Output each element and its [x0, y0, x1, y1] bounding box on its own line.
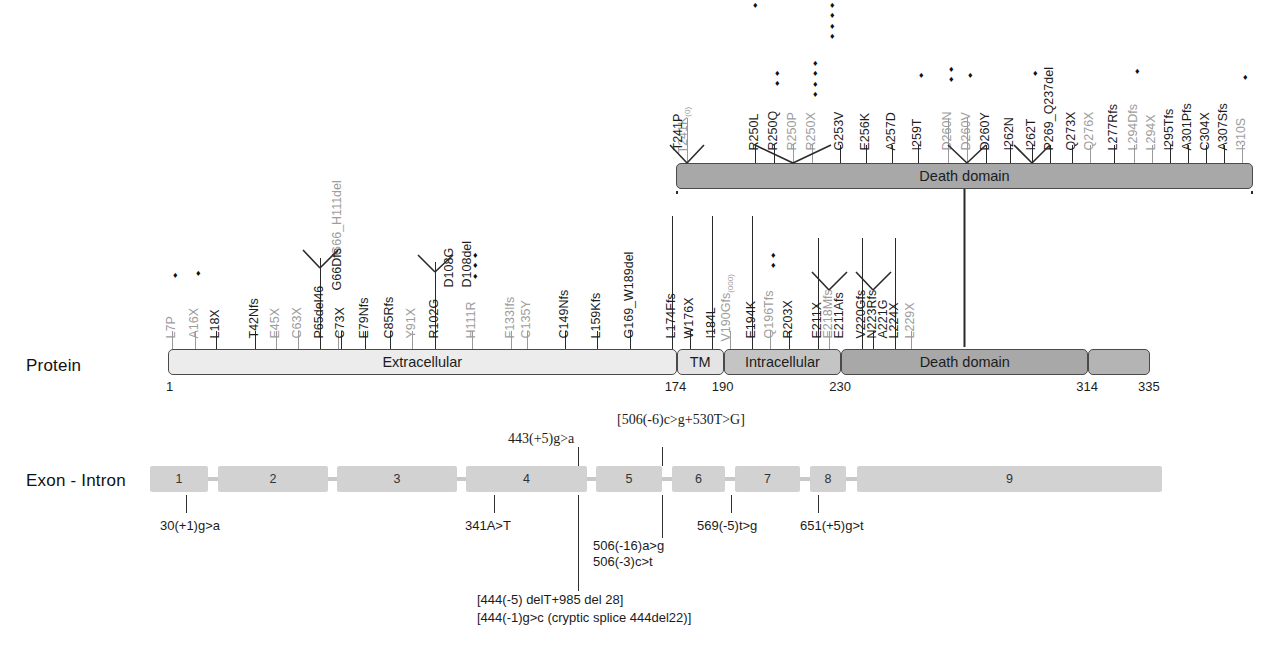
mutation-label: L224X	[888, 302, 901, 338]
mutation-diamond-marker: ♦	[196, 268, 201, 278]
mutation-label: R203X	[782, 300, 795, 338]
mutation-label: I259T	[911, 119, 924, 151]
death-domain-zoom-bar: Death domain	[676, 163, 1253, 189]
protein-position-190: 190	[712, 379, 734, 394]
exon-number: 1	[176, 472, 183, 486]
mutation-diamond-marker: ♦	[1135, 66, 1140, 76]
protein-position-335: 335	[1138, 379, 1160, 394]
mutation-label: R102G	[428, 299, 441, 339]
exon-number: 2	[270, 472, 277, 486]
mutation-label: P269_Q237del	[1043, 67, 1056, 150]
mutation-diamond-marker: ♦	[753, 0, 758, 10]
mutation-diamond-marker: ♦	[1243, 72, 1248, 82]
mutation-label: Q196Tfs	[763, 291, 776, 339]
intron-connector	[846, 477, 857, 481]
exon-block-5: 5	[596, 466, 662, 492]
mutation-label: E256K	[859, 113, 872, 151]
mutation-label: C304X	[1199, 112, 1212, 150]
mutation-label: I262T	[1025, 119, 1038, 151]
protein-position-314: 314	[1076, 379, 1098, 394]
mutation-label: P65del46	[313, 286, 326, 339]
mutation-label: D260Y	[979, 112, 992, 150]
splice-annotation-below: [444(-5) delT+985 del 28]	[477, 592, 623, 607]
mutation-label: Q276X	[1083, 112, 1096, 151]
intron-connector	[208, 477, 218, 481]
splice-leader-line	[662, 495, 663, 538]
mutation-label: I310S	[1235, 118, 1248, 151]
splice-leader-line	[662, 447, 663, 466]
splice-leader-line	[494, 495, 495, 513]
mutation-label: C85Rfs	[383, 297, 396, 339]
exon-number: 4	[523, 472, 530, 486]
mutation-label: Q273X	[1065, 112, 1078, 151]
mutation-label: G253V	[833, 112, 846, 151]
intron-connector	[725, 477, 735, 481]
intron-connector	[800, 477, 810, 481]
exon-number: 5	[626, 472, 633, 486]
mutation-label: W176X	[683, 298, 696, 339]
mutation-label: L294X	[1145, 114, 1158, 150]
protein-domain-extracellular: Extracellular	[168, 349, 677, 375]
mutation-label: L294Dfs	[1127, 104, 1140, 151]
mutation-label: G66_H111del	[331, 180, 344, 255]
mutation-label: C63X	[291, 307, 304, 338]
protein-domain-label: Extracellular	[382, 354, 462, 370]
mutation-label: A257D	[885, 112, 898, 150]
mutation-diamond-marker: ♦	[968, 70, 973, 80]
protein-position-174: 174	[665, 379, 687, 394]
mutation-label: L159Kfs	[590, 293, 603, 339]
splice-annotation-below: 506(-3)c>t	[593, 554, 653, 569]
mutation-label: R250Q	[767, 111, 780, 151]
splice-annotation-below: 651(+5)g>t	[800, 518, 864, 533]
mutation-label: E45X	[269, 308, 282, 339]
mutation-label: C73X	[334, 307, 347, 338]
mutation-label: N223Rfs	[866, 290, 879, 339]
mutation-label: L174Ffs	[665, 293, 678, 338]
protein-position-1: 1	[166, 379, 173, 394]
splice-annotation-below: [444(-1)g>c (cryptic splice 444del22)]	[477, 610, 691, 625]
exon-number: 3	[394, 472, 401, 486]
exon-row-label: Exon - Intron	[26, 471, 126, 491]
mutation-label: G66Dfs	[331, 248, 344, 290]
splice-leader-line	[731, 495, 732, 513]
mutation-label: A16X	[188, 308, 201, 339]
figure-canvas: Protein Exon - Intron ExtracellularTMInt…	[0, 0, 1283, 662]
exon-block-4: 4	[466, 466, 587, 492]
exon-block-7: 7	[735, 466, 800, 492]
exon-block-9: 9	[857, 466, 1162, 492]
splice-annotation-above: [506(-6)c>g+530T>G]	[617, 412, 745, 428]
protein-domain-label: Intracellular	[745, 354, 820, 370]
mutation-label: E194K	[745, 301, 758, 339]
mutation-label: E218Mfs	[822, 289, 835, 338]
mutation-diamond-marker: ♦♦	[775, 68, 780, 89]
mutation-diamond-marker: ♦♦♦♦	[813, 58, 818, 99]
splice-annotation-below: 341A>T	[465, 518, 511, 533]
death-domain-zoom-label: Death domain	[919, 168, 1009, 184]
mutation-label: I184L	[705, 307, 718, 338]
splice-leader-line	[186, 495, 187, 513]
mutation-label: L277Rfs	[1107, 104, 1120, 151]
protein-domain-tail	[1088, 349, 1150, 375]
intron-connector	[457, 477, 466, 481]
mutation-label: E79Nfs	[358, 298, 371, 339]
splice-annotation-below: 506(-16)a>g	[593, 538, 664, 553]
splice-annotation-below: 569(-5)t>g	[697, 518, 757, 533]
mutation-label: R250L	[748, 114, 761, 151]
mutation-diamond-marker: ♦♦♦	[473, 250, 478, 281]
exon-block-1: 1	[150, 466, 208, 492]
mutation-label: V190Gfs(000)	[720, 274, 736, 341]
mutation-label: F133Ifs	[504, 297, 517, 339]
splice-leader-line	[818, 495, 819, 513]
mutation-label: L229X	[904, 302, 917, 338]
exon-block-2: 2	[218, 466, 328, 492]
mutation-label: C135Y	[520, 300, 533, 338]
mutation-label: Y91X	[405, 308, 418, 339]
mutation-label: R250X	[805, 112, 818, 150]
splice-annotation-below: 30(+1)g>a	[160, 518, 220, 533]
mutation-label: D108del	[461, 241, 474, 288]
mutation-label: D108G	[443, 248, 456, 288]
mutation-label: D260N	[941, 112, 954, 151]
intron-connector	[587, 477, 596, 481]
mutation-label: I295Tfs	[1163, 109, 1176, 151]
protein-domain-intracellular: Intracellular	[724, 349, 842, 375]
